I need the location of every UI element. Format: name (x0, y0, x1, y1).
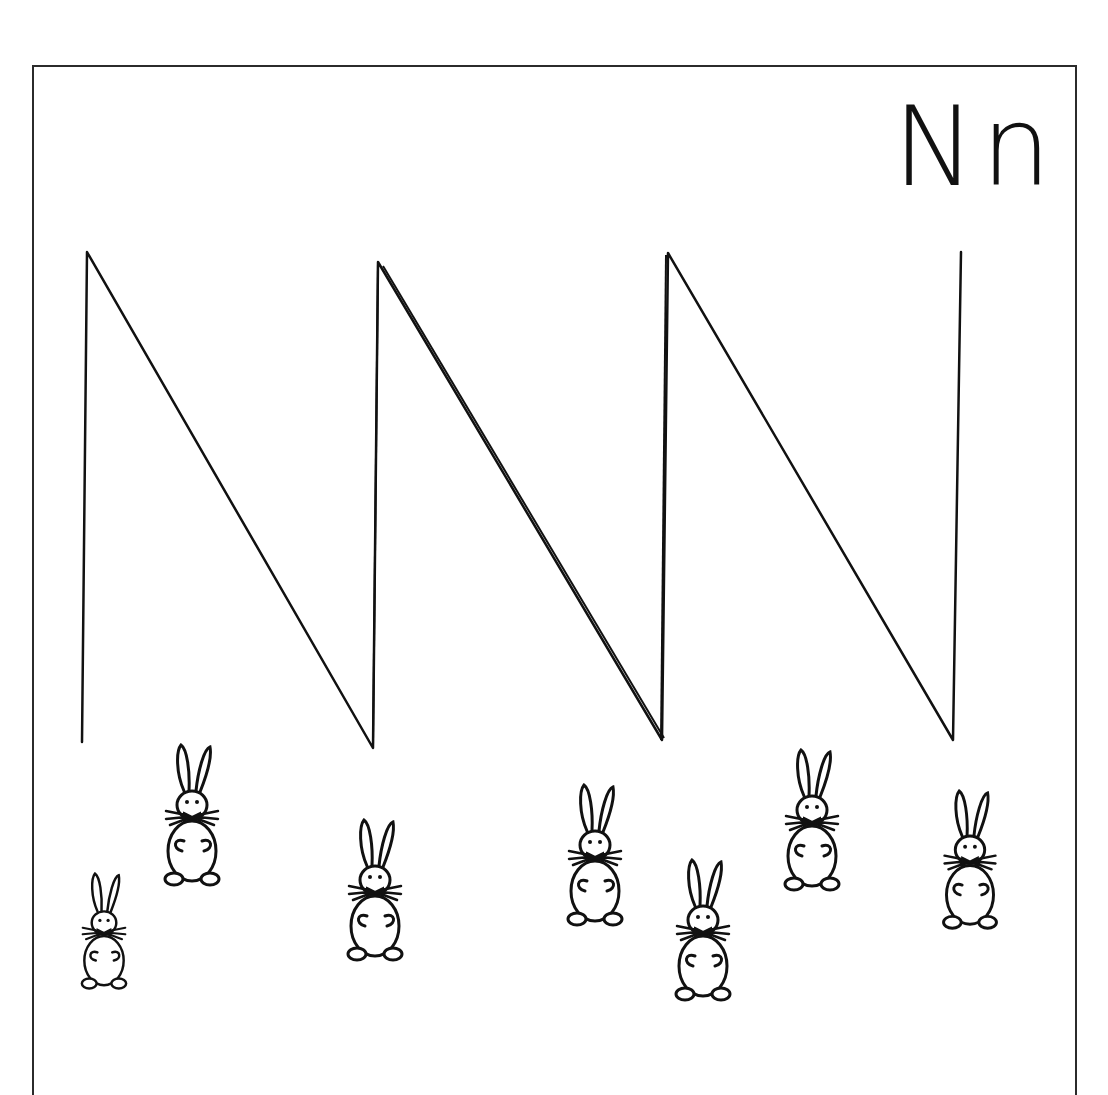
bunny-1-icon (82, 874, 126, 989)
bunny-5-icon (676, 860, 730, 1000)
bunny-7-icon (944, 791, 997, 928)
bunnies-group (82, 745, 997, 1000)
letter-n-zigzag-trace (82, 252, 961, 748)
bunny-2-icon (165, 745, 219, 885)
bunny-6-icon (785, 750, 839, 890)
bunny-3-icon (348, 820, 402, 960)
bunny-4-icon (568, 785, 622, 925)
